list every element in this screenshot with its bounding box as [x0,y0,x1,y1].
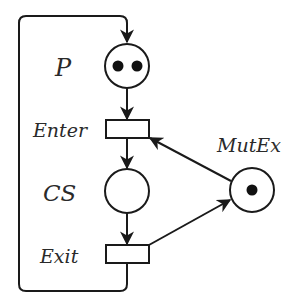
transition-enter [106,120,149,138]
arc-exit-to-mutex [149,200,230,245]
petri-net-diagram: P Enter CS Exit MutEx [0,0,299,307]
token-icon [132,61,143,72]
label-mutex: MutEx [216,134,281,156]
label-exit: Exit [39,245,79,267]
label-cs: CS [43,180,76,206]
place-cs [105,169,149,213]
place-p [105,44,149,88]
token-icon [247,185,258,196]
label-enter: Enter [32,119,89,141]
transition-exit [106,245,149,263]
label-p: P [54,54,72,82]
place-mutex [230,168,274,212]
token-icon [113,61,124,72]
